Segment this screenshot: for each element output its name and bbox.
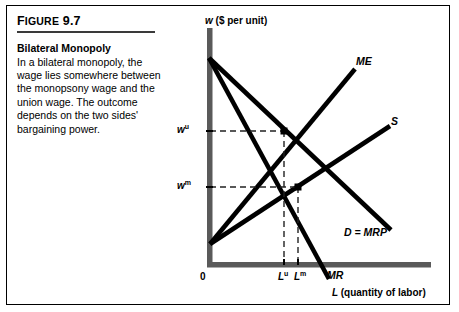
curve-label-d-mrp: D = MRP [344,226,387,238]
y-axis-label: w ($ per unit) [205,15,267,26]
x-axis-symbol: L [332,287,338,298]
y-axis-symbol: w [205,15,213,26]
y-tick-label-wu: wu [177,124,189,135]
wu-base: w [177,124,185,135]
origin-label: 0 [200,271,206,282]
chart-svg [172,6,459,306]
x-tick-label-Lu: Lu [278,271,288,282]
Lu-sup: u [284,270,288,277]
x-axis-unit: (quantity of labor) [341,287,426,298]
x-axis-label: L (quantity of labor) [332,287,426,298]
figure-caption: FIGURE 9.7 Bilateral Monopoly In a bilat… [17,14,167,136]
x-tick-label-Lm: Lm [294,271,306,282]
caption-title: Bilateral Monopoly [17,42,167,55]
curve-label-me: ME [356,55,372,67]
curve-label-mr: MR [327,269,343,281]
y-axis-unit: ($ per unit) [216,15,268,26]
marker-union-equilibrium [281,128,288,135]
wm-base: w [177,180,185,191]
curve-mr [209,58,329,279]
Lm-sup: m [300,270,306,277]
chart-plot-area: w ($ per unit) L (quantity of labor) wu … [172,6,459,306]
figure-frame: FIGURE 9.7 Bilateral Monopoly In a bilat… [6,5,450,305]
caption-body: In a bilateral monopoly, the wage lies s… [17,56,163,136]
curve-label-s: S [391,115,398,127]
figure-number: FIGURE 9.7 [17,14,167,28]
y-tick-label-wm: wm [177,180,191,191]
marker-monopsony-equilibrium [295,184,302,191]
wm-sup: m [185,179,191,186]
wu-sup: u [185,123,189,130]
title-divider [17,31,155,33]
